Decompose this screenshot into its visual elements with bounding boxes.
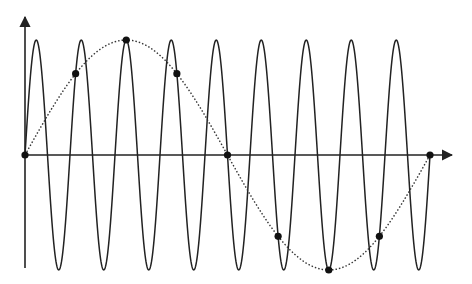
plot-area <box>0 0 472 284</box>
sample-point <box>275 233 282 240</box>
sample-point <box>123 36 130 43</box>
sample-point <box>426 151 433 158</box>
sample-point <box>173 70 180 77</box>
aliasing-diagram <box>0 0 472 284</box>
sample-point <box>325 266 332 273</box>
sample-point <box>21 151 28 158</box>
sample-point <box>224 151 231 158</box>
sample-point <box>376 233 383 240</box>
sample-point <box>72 70 79 77</box>
